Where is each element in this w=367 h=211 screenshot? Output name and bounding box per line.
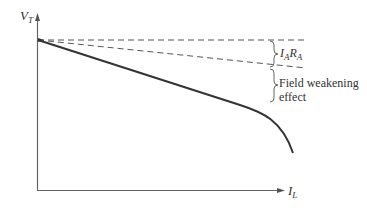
y-axis-arrow-icon <box>35 13 40 21</box>
y-axis-label-main: V <box>20 8 28 23</box>
armature-drop-dashed-line <box>38 40 306 68</box>
x-axis-label-sub: L <box>292 190 297 200</box>
field-weakening-label: Field weakening effect <box>279 76 359 104</box>
ra-label-sub: A <box>297 52 303 62</box>
field-weakening-line2: effect <box>279 90 359 104</box>
field-weakening-line1: Field weakening <box>279 76 359 90</box>
terminal-characteristic-curve <box>38 40 293 153</box>
x-axis-label: IL <box>288 184 297 200</box>
x-axis-arrow-icon <box>277 188 285 193</box>
field-weakening-brace <box>270 69 278 102</box>
ia-ra-label: IARA <box>280 47 302 62</box>
y-axis-label-sub: T <box>28 15 33 25</box>
ra-label-main: R <box>290 46 297 60</box>
diagram-canvas <box>0 0 367 211</box>
y-axis-label: VT <box>20 9 33 25</box>
ia-ra-brace <box>270 41 278 67</box>
